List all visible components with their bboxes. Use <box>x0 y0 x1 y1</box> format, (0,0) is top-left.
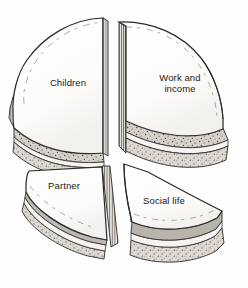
cake-illustration <box>0 0 248 288</box>
slice-social-life[interactable] <box>124 164 224 262</box>
slice-partner[interactable] <box>22 166 118 259</box>
cake-pie-figure: Children Work and income Partner Social … <box>0 0 248 288</box>
slice-work-and-income[interactable] <box>119 22 228 167</box>
slice-children[interactable] <box>9 18 108 179</box>
